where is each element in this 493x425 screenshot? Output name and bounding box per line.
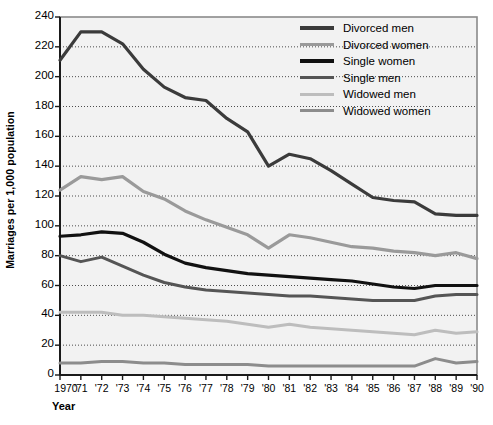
- y-tick-label: 240: [20, 9, 54, 21]
- legend-swatch-line: [300, 59, 334, 62]
- x-tick-label: '77: [196, 382, 216, 394]
- x-tick-label: '76: [175, 382, 195, 394]
- legend-label: Single men: [343, 72, 401, 84]
- x-tick-label: '86: [384, 382, 404, 394]
- x-tick-label: '82: [300, 382, 320, 394]
- legend-item[interactable]: Single men: [300, 72, 401, 84]
- legend-item[interactable]: Single women: [300, 55, 415, 67]
- legend-swatch-line: [300, 26, 334, 29]
- legend-swatch-line: [300, 76, 334, 79]
- y-tick-label: 0: [20, 367, 54, 379]
- x-tick-label: '88: [425, 382, 445, 394]
- x-tick-label: '71: [71, 382, 91, 394]
- x-tick-label: '80: [259, 382, 279, 394]
- y-tick-label: 20: [20, 337, 54, 349]
- legend-item[interactable]: Divorced men: [300, 22, 414, 34]
- y-tick-label: 200: [20, 69, 54, 81]
- x-tick-label: '90: [467, 382, 487, 394]
- y-tick-label: 100: [20, 218, 54, 230]
- y-axis-title: Marriages per 1,000 population: [2, 0, 18, 380]
- y-tick-label: 140: [20, 158, 54, 170]
- legend-item[interactable]: Widowed women: [300, 105, 431, 117]
- y-tick-label: 40: [20, 307, 54, 319]
- x-tick-label: '75: [154, 382, 174, 394]
- x-tick-label: '87: [404, 382, 424, 394]
- y-tick-label: 60: [20, 278, 54, 290]
- x-tick-label: '84: [342, 382, 362, 394]
- y-tick-label: 180: [20, 99, 54, 111]
- x-tick-label: '81: [279, 382, 299, 394]
- x-tick-label: '85: [363, 382, 383, 394]
- legend-swatch-line: [300, 109, 334, 112]
- legend-swatch-line: [300, 43, 334, 46]
- legend-item[interactable]: Widowed men: [300, 88, 416, 100]
- legend-label: Widowed men: [343, 88, 416, 100]
- x-tick-label: '72: [92, 382, 112, 394]
- x-tick-label: '79: [238, 382, 258, 394]
- x-tick-label: '89: [446, 382, 466, 394]
- legend-label: Divorced men: [343, 22, 414, 34]
- legend-item[interactable]: Divorced women: [300, 39, 429, 51]
- x-tick-label: '83: [321, 382, 341, 394]
- legend-label: Widowed women: [343, 105, 431, 117]
- x-tick-label: '74: [133, 382, 153, 394]
- plot-area: [0, 0, 493, 425]
- y-tick-label: 120: [20, 188, 54, 200]
- legend-swatch-line: [300, 93, 334, 96]
- legend-label: Single women: [343, 55, 415, 67]
- chart-figure: Marriages per 1,000 population Year 0204…: [0, 0, 493, 425]
- y-tick-label: 160: [20, 128, 54, 140]
- legend-label: Divorced women: [343, 39, 429, 51]
- y-tick-label: 80: [20, 248, 54, 260]
- y-tick-label: 220: [20, 39, 54, 51]
- x-tick-label: '73: [113, 382, 133, 394]
- x-tick-label: '78: [217, 382, 237, 394]
- x-axis-title: Year: [52, 400, 75, 412]
